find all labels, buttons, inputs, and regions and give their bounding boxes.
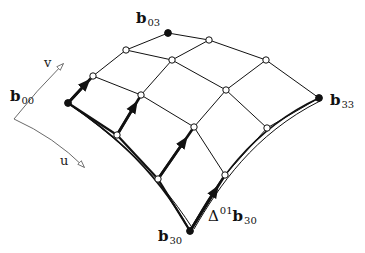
label-b33-sub: 33 (342, 99, 355, 110)
u-direction-arrow (14, 119, 84, 167)
label-b03-sub: 03 (148, 17, 161, 28)
net-edge-b23-b33 (266, 60, 319, 98)
label-delta-b30: Δ01b30 (208, 206, 257, 226)
net-edge-b32-b33 (267, 98, 319, 128)
label-delta-sub: 30 (244, 215, 257, 226)
label-b33: b33 (330, 92, 354, 110)
label-b00-sub: 00 (22, 95, 35, 106)
label-b00: b00 (10, 88, 34, 106)
boundary-curve-u-boundary-v0 (68, 103, 190, 231)
net-edge-b22-b32 (226, 90, 267, 128)
control-points (65, 30, 323, 235)
net-edge-b02-b12 (126, 50, 172, 60)
uv-axes-indicator (14, 64, 84, 167)
control-point-b31 (222, 172, 228, 178)
label-b03: b03 (136, 10, 160, 28)
boundary-curve-offset-u-boundary-v0 (72, 106, 193, 229)
control-point-b33 (316, 95, 323, 102)
net-edge-b01-b02 (93, 50, 126, 76)
control-point-b22 (223, 87, 229, 93)
net-edge-b21-b31 (194, 127, 225, 175)
label-b30-base: b (158, 227, 169, 245)
net-edge-b11-b12 (141, 60, 172, 95)
label-b00-base: b (10, 87, 21, 105)
net-edge-b31-b32 (225, 128, 267, 175)
control-point-b23 (263, 57, 269, 63)
label-b30: b30 (158, 228, 182, 246)
axis-label-u: u (60, 154, 68, 167)
control-point-b12 (169, 57, 175, 63)
control-point-b13 (206, 37, 212, 43)
bezier-patch-diagram (0, 0, 365, 253)
control-point-b00 (65, 100, 72, 107)
net-edge-b11-b21 (141, 95, 194, 127)
control-point-b32 (264, 125, 270, 131)
net-edge-b22-b23 (226, 60, 266, 90)
control-point-b20 (155, 176, 161, 182)
control-point-b10 (114, 132, 120, 138)
boundary-polygon-edge-b00 (68, 103, 117, 135)
control-point-b01 (90, 73, 96, 79)
net-edge-b12-b22 (172, 60, 226, 90)
label-delta-sup: 01 (220, 205, 233, 216)
derivative-vectors (68, 76, 225, 231)
label-delta-base: b (233, 207, 244, 225)
control-point-b30 (187, 228, 194, 235)
derivative-arrowhead-b10 (117, 106, 134, 135)
label-delta-symbol: Δ (208, 207, 219, 225)
boundary-curves (68, 98, 320, 231)
derivative-arrowhead-b20 (158, 142, 184, 179)
net-edge-b03-b13 (168, 33, 209, 40)
derivative-arrowhead-b00 (68, 84, 86, 103)
boundary-polygon-edge-b10 (117, 135, 158, 179)
control-point-b03 (165, 30, 172, 37)
boundary-polygon-edge-b20 (158, 179, 190, 231)
control-point-b21 (191, 124, 197, 130)
label-b03-base: b (136, 9, 147, 27)
net-edge-b21-b22 (194, 90, 226, 127)
label-b30-sub: 30 (170, 235, 183, 246)
net-edge-b02-b03 (126, 33, 168, 50)
control-point-b02 (123, 47, 129, 53)
net-edge-b01-b11 (93, 76, 141, 95)
axis-label-v: v (44, 56, 51, 69)
control-point-b11 (138, 92, 144, 98)
net-edge-b13-b23 (209, 40, 266, 60)
label-b33-base: b (330, 91, 341, 109)
net-edge-b12-b13 (172, 40, 209, 60)
